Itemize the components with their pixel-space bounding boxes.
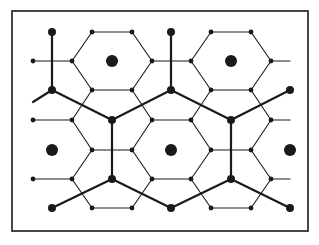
network-node xyxy=(227,175,235,183)
thin-edge xyxy=(132,61,152,90)
thin-edge xyxy=(132,120,152,150)
small-node xyxy=(189,59,194,64)
small-node xyxy=(189,177,194,182)
small-node xyxy=(269,118,274,123)
small-node xyxy=(130,30,135,35)
small-node xyxy=(90,88,95,93)
small-node xyxy=(150,59,155,64)
small-node xyxy=(31,59,36,64)
small-node xyxy=(189,118,194,123)
network-node xyxy=(108,175,116,183)
small-node xyxy=(70,177,75,182)
thin-edge xyxy=(251,150,271,179)
small-node xyxy=(70,118,75,123)
network-node xyxy=(48,204,56,212)
small-node xyxy=(90,148,95,153)
center-node xyxy=(106,55,118,67)
thin-edge xyxy=(191,120,211,150)
thick-edge xyxy=(112,179,171,208)
small-node xyxy=(209,30,214,35)
small-node xyxy=(249,206,254,211)
thin-edge xyxy=(72,61,92,90)
network-node xyxy=(286,86,294,94)
thin-edge xyxy=(251,120,271,150)
network-node xyxy=(167,86,175,94)
small-node xyxy=(90,206,95,211)
thick-edge xyxy=(231,90,290,120)
small-node xyxy=(269,59,274,64)
small-node xyxy=(209,88,214,93)
thick-edge xyxy=(112,90,171,120)
small-node xyxy=(150,177,155,182)
center-node xyxy=(284,144,296,156)
network-node xyxy=(167,28,175,36)
small-node xyxy=(209,148,214,153)
thin-edge xyxy=(72,150,92,179)
small-node xyxy=(209,206,214,211)
thick-edge xyxy=(52,179,112,208)
network-node xyxy=(48,86,56,94)
thin-edge xyxy=(251,61,271,90)
thick-edge xyxy=(52,90,112,120)
small-node xyxy=(150,118,155,123)
thin-edge xyxy=(132,32,152,61)
small-node xyxy=(249,88,254,93)
center-node xyxy=(165,144,177,156)
thick-edge xyxy=(231,179,290,208)
small-node xyxy=(249,30,254,35)
small-node xyxy=(269,177,274,182)
thin-edge xyxy=(72,120,92,150)
small-node xyxy=(130,88,135,93)
diagram-frame xyxy=(12,11,308,231)
thin-edge xyxy=(191,150,211,179)
small-node xyxy=(249,148,254,153)
small-node xyxy=(31,118,36,123)
small-node xyxy=(130,206,135,211)
network-node xyxy=(227,116,235,124)
small-node xyxy=(70,59,75,64)
small-node xyxy=(31,177,36,182)
thick-edge xyxy=(171,179,231,208)
thick-edge xyxy=(171,90,231,120)
small-node xyxy=(90,30,95,35)
thin-edge xyxy=(251,32,271,61)
small-node xyxy=(130,148,135,153)
network-node xyxy=(286,204,294,212)
network-node xyxy=(167,204,175,212)
thin-edge xyxy=(191,61,211,90)
center-node xyxy=(225,55,237,67)
lattice-diagram xyxy=(0,0,319,245)
network-node xyxy=(48,28,56,36)
thin-edge xyxy=(191,32,211,61)
thin-edge xyxy=(132,150,152,179)
network-node xyxy=(108,116,116,124)
thin-edge xyxy=(72,32,92,61)
center-node xyxy=(46,144,58,156)
